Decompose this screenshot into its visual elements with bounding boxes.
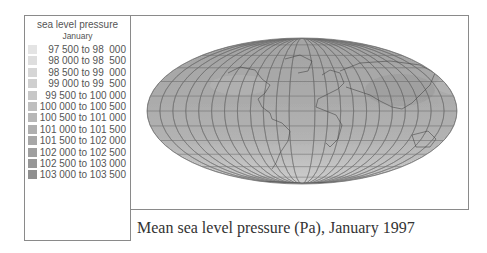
- legend-entry: 100 500 to 101 000: [25, 112, 130, 123]
- legend-label: 102 000 to 102 500: [40, 147, 126, 158]
- legend-swatch: [28, 79, 37, 88]
- legend-label: 103 000 to 103 500: [40, 169, 126, 180]
- legend-entry: 101 000 to 101 500: [25, 124, 130, 135]
- legend-entry: 103 000 to 103 500: [25, 169, 130, 180]
- legend-swatch: [28, 148, 37, 157]
- legend-entry: 98 000 to 98 500: [25, 55, 130, 66]
- legend-entry: 98 500 to 99 000: [25, 67, 130, 78]
- legend-swatch: [28, 170, 37, 179]
- legend-entry: 102 500 to 103 000: [25, 158, 130, 169]
- figure-caption: Mean sea level pressure (Pa), January 19…: [137, 219, 415, 237]
- legend-entry: 97 500 to 98 000: [25, 44, 130, 55]
- world-map: [130, 15, 469, 210]
- legend-swatch: [28, 125, 37, 134]
- legend-swatch: [28, 68, 37, 77]
- legend-entry: 100 000 to 100 500: [25, 101, 130, 112]
- legend-label: 102 500 to 103 000: [40, 158, 126, 169]
- legend-subtitle: January: [25, 31, 130, 41]
- legend-entry: 102 000 to 102 500: [25, 147, 130, 158]
- legend-label: 98 000 to 98 500: [48, 55, 126, 66]
- legend-swatch: [28, 102, 37, 111]
- legend-label: 99 500 to 100 000: [45, 90, 126, 101]
- legend-swatch: [28, 56, 37, 65]
- legend-entry: 101 500 to 102 000: [25, 135, 130, 146]
- legend-entry: 99 500 to 100 000: [25, 90, 130, 101]
- legend-label: 101 000 to 101 500: [40, 124, 126, 135]
- legend-swatch: [28, 113, 37, 122]
- legend-entry: 99 000 to 99 500: [25, 78, 130, 89]
- legend-label: 97 500 to 98 000: [48, 44, 126, 55]
- legend-swatch: [28, 159, 37, 168]
- legend-label: 101 500 to 102 000: [40, 135, 126, 146]
- legend-swatch: [28, 45, 37, 54]
- legend-title: sea level pressure: [25, 19, 130, 30]
- legend-swatch: [28, 136, 37, 145]
- legend-label: 100 500 to 101 000: [40, 112, 126, 123]
- legend-entries: 97 500 to 98 00098 000 to 98 50098 500 t…: [25, 44, 130, 181]
- legend-label: 99 000 to 99 500: [48, 78, 126, 89]
- legend-panel: sea level pressure January 97 500 to 98 …: [24, 15, 131, 241]
- legend-label: 100 000 to 100 500: [40, 101, 126, 112]
- legend-label: 98 500 to 99 000: [48, 67, 126, 78]
- pressure-field: [130, 15, 469, 210]
- legend-swatch: [28, 91, 37, 100]
